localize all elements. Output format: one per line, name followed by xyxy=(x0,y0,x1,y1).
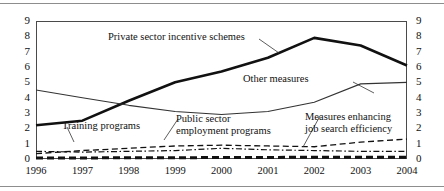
page-rule-bottom xyxy=(0,186,444,187)
y-tick-label-right-4: 4 xyxy=(416,92,430,103)
annotation-public-sector: Public sector employment programs xyxy=(176,113,271,136)
annotation-job-search-line1: Measures enhancing xyxy=(305,111,392,123)
x-tick-label-2004: 2004 xyxy=(390,165,424,176)
y-tick-label-left-2: 2 xyxy=(16,122,30,133)
x-tick-label-2000: 2000 xyxy=(205,165,239,176)
y-tick-label-left-0: 0 xyxy=(16,153,30,164)
annotation-public-sector-line2: employment programs xyxy=(176,125,271,137)
y-tick-label-left-5: 5 xyxy=(16,76,30,87)
annotation-training-programs: Training programs xyxy=(62,120,140,132)
y-tick-label-right-6: 6 xyxy=(416,61,430,72)
annotation-public-sector-line1: Public sector xyxy=(176,113,271,125)
x-tick-label-2003: 2003 xyxy=(344,165,378,176)
x-tick-label-1996: 1996 xyxy=(19,165,53,176)
y-tick-label-left-7: 7 xyxy=(16,46,30,57)
y-tick-label-right-2: 2 xyxy=(416,122,430,133)
y-tick-label-right-3: 3 xyxy=(416,107,430,118)
x-tick-label-1999: 1999 xyxy=(158,165,192,176)
x-tick-label-1998: 1998 xyxy=(112,165,146,176)
x-tick-label-1997: 1997 xyxy=(65,165,99,176)
chart-figure: 0123456789 0123456789 199619971998199920… xyxy=(0,0,444,191)
y-tick-label-right-5: 5 xyxy=(416,76,430,87)
y-tick-label-right-1: 1 xyxy=(416,138,430,149)
y-tick-label-left-9: 9 xyxy=(16,15,30,26)
annotation-private-sector: Private sector incentive schemes xyxy=(108,31,245,43)
y-tick-label-left-4: 4 xyxy=(16,92,30,103)
y-tick-label-right-9: 9 xyxy=(416,15,430,26)
annotation-job-search-line2: job search efficiency xyxy=(305,123,392,135)
y-tick-label-left-1: 1 xyxy=(16,138,30,149)
annotation-job-search: Measures enhancing job search efficiency xyxy=(305,111,392,134)
y-tick-label-left-8: 8 xyxy=(16,30,30,41)
annotation-other-measures: Other measures xyxy=(243,73,309,85)
y-tick-label-left-6: 6 xyxy=(16,61,30,72)
y-tick-label-right-7: 7 xyxy=(416,46,430,57)
y-tick-label-left-3: 3 xyxy=(16,107,30,118)
y-tick-label-right-0: 0 xyxy=(416,153,430,164)
x-tick-label-2001: 2001 xyxy=(251,165,285,176)
x-tick-label-2002: 2002 xyxy=(297,165,331,176)
leader-other-measures xyxy=(353,82,374,93)
leader-private-sector xyxy=(259,39,279,53)
page-rule-top xyxy=(0,3,444,4)
y-tick-label-right-8: 8 xyxy=(416,30,430,41)
